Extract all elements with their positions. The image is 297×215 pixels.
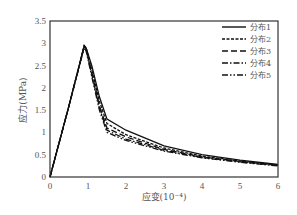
series-line-4 xyxy=(50,47,278,177)
y-tick-label: 2.5 xyxy=(35,61,47,71)
plot-frame xyxy=(50,21,278,177)
legend-label: 分布3 xyxy=(250,46,271,56)
x-tick-label: 2 xyxy=(124,181,129,191)
series-line-5 xyxy=(50,48,278,177)
y-tick-label: 1 xyxy=(42,127,47,137)
y-tick-label: 0 xyxy=(42,172,47,182)
stress-strain-chart: 0123456 00.511.522.533.5 应变(10⁻⁴) 应力(MPa… xyxy=(0,0,297,215)
y-tick-label: 1.5 xyxy=(35,105,47,115)
x-tick-label: 6 xyxy=(276,181,281,191)
x-tick-label: 1 xyxy=(86,181,91,191)
x-tick-label: 0 xyxy=(48,181,53,191)
legend-label: 分布5 xyxy=(250,70,271,80)
x-tick-label: 4 xyxy=(200,181,205,191)
series-line-1 xyxy=(50,46,278,178)
x-tick-label: 3 xyxy=(162,181,167,191)
y-tick-label: 3 xyxy=(42,38,47,48)
legend-label: 分布4 xyxy=(250,58,271,68)
y-tick-label: 0.5 xyxy=(35,150,47,160)
y-tick-label: 2 xyxy=(42,83,47,93)
legend-label: 分布2 xyxy=(250,34,271,44)
y-axis-label: 应力(MPa) xyxy=(17,77,28,122)
legend-label: 分布1 xyxy=(250,22,271,32)
x-axis-ticks: 0123456 xyxy=(48,181,281,191)
series-line-2 xyxy=(50,46,278,178)
plot-lines xyxy=(50,46,278,178)
y-tick-label: 3.5 xyxy=(35,16,47,26)
x-axis-label: 应变(10⁻⁴) xyxy=(142,191,187,202)
y-axis-ticks: 00.511.522.533.5 xyxy=(35,16,47,182)
legend: 分布1分布2分布3分布4分布5 xyxy=(222,22,271,80)
x-tick-label: 5 xyxy=(238,181,243,191)
series-line-3 xyxy=(50,46,278,177)
